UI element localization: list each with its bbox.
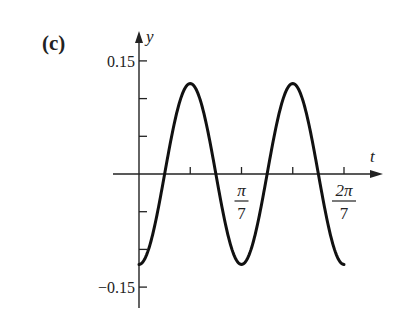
y-axis-arrow-icon [135, 31, 143, 43]
x-axis-label: t [370, 147, 376, 166]
x-tick-label-numerator: 2π [335, 181, 353, 200]
panel-label: (c) [42, 31, 65, 55]
x-tick-label-denominator: 7 [237, 204, 246, 223]
y-axis: y 0.15−0.15 [98, 27, 154, 308]
x-tick-label-denominator: 7 [340, 204, 349, 223]
y-tick-label: −0.15 [98, 279, 135, 296]
x-axis-arrow-icon [370, 170, 383, 178]
x-axis: t π72π7 [113, 147, 383, 223]
chart: (c) y 0.15−0.15 t π72π7 [0, 0, 402, 317]
y-axis-label: y [144, 27, 154, 46]
x-tick-label-numerator: π [237, 181, 246, 200]
y-tick-label: 0.15 [107, 53, 135, 70]
